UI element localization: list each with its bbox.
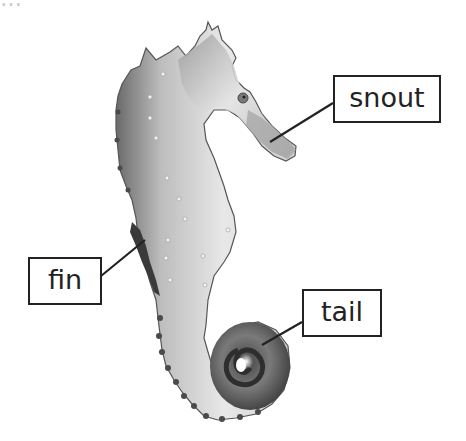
tail-label-text: tail — [321, 298, 363, 328]
fin-leader-line — [101, 240, 145, 276]
snout-label: snout — [333, 75, 441, 123]
fin-label: fin — [28, 257, 102, 305]
snout-leader-line — [270, 103, 333, 142]
diagram-canvas: … — [0, 0, 466, 441]
snout-label-text: snout — [349, 84, 424, 114]
fin-label-text: fin — [48, 266, 82, 296]
tail-label: tail — [302, 289, 382, 337]
seahorse-illustration — [0, 0, 466, 441]
